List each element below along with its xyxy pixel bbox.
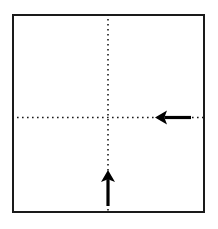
origami-diagram <box>0 0 218 229</box>
diagram-canvas <box>0 0 218 229</box>
